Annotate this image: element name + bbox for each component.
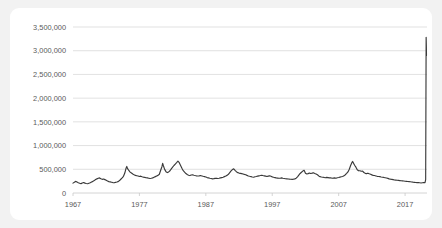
y-axis-tick-label: 0 [62, 189, 66, 198]
x-axis-tick-label: 2017 [397, 200, 413, 209]
data-series-initial-claims [73, 37, 426, 183]
x-axis-tick-label: 2007 [330, 200, 346, 209]
chart-card: 3,500,0003,000,0002,500,0002,000,0001,50… [0, 0, 442, 228]
y-axis-tick-label: 500,000 [39, 165, 66, 174]
x-axis-tick-label: 1967 [65, 200, 81, 209]
y-axis-tick-label: 2,000,000 [33, 94, 66, 103]
y-axis-tick-label: 1,000,000 [33, 141, 66, 150]
y-axis-tick-label: 1,500,000 [33, 118, 66, 127]
y-axis-tick-labels: 3,500,0003,000,0002,500,0002,000,0001,50… [33, 23, 66, 198]
y-axis-tick-label: 3,500,000 [33, 23, 66, 32]
chart-plot-container: 3,500,0003,000,0002,500,0002,000,0001,50… [10, 8, 432, 220]
y-axis-tick-label: 2,500,000 [33, 70, 66, 79]
x-axis-tick-label: 1977 [131, 200, 147, 209]
x-axis-tick-label: 1997 [264, 200, 280, 209]
line-chart: 3,500,0003,000,0002,500,0002,000,0001,50… [10, 8, 432, 220]
x-axis-tick-labels: 196719771987199720072017 [65, 200, 414, 209]
series-line [73, 37, 426, 183]
x-axis-tick-label: 1987 [198, 200, 214, 209]
y-axis-tick-label: 3,000,000 [33, 46, 66, 55]
x-axis [73, 193, 405, 196]
